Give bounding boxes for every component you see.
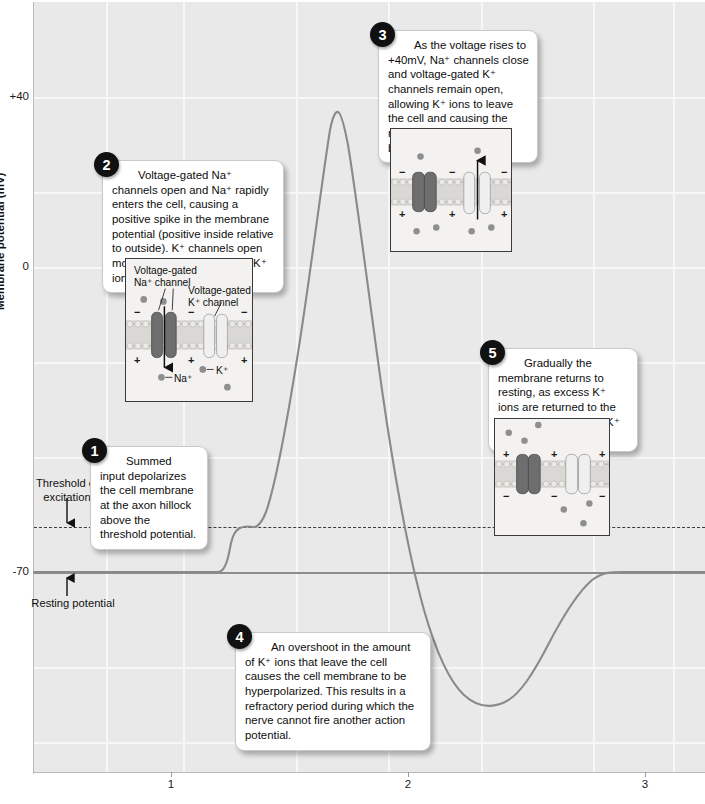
callout-3-badge: 3 [370,22,395,47]
y-tick-zero: 0 [0,260,29,272]
x-tick-3: 3 [635,778,655,790]
outside-charge-sign: + [551,449,557,460]
outside-charge-sign: + [503,449,509,460]
x-tick-2: 2 [398,778,418,790]
k-channel-label-line1: Voltage-gated [188,285,251,296]
membrane-graphic [495,419,609,535]
callout-4-badge: 4 [227,624,252,649]
x-tick-mark [171,772,172,777]
membrane-graphic [391,129,511,251]
callout-1[interactable]: 1 Summed input depolarizes the cell memb… [90,446,208,550]
outside-charge-sign: − [501,167,507,178]
k-ion-label: K⁺ [216,365,228,376]
callout-5-badge: 5 [480,340,505,365]
outside-charge-sign: − [449,167,455,178]
callout-1-badge: 1 [82,438,107,463]
callout-4-text: An overshoot in the amount of K⁺ ions th… [236,633,430,750]
membrane-diagram-2: Voltage-gated Na⁺ channel Voltage-gated … [125,258,253,402]
callout-1-text: Summed input depolarizes the cell membra… [91,447,207,549]
inside-charge-sign: − [551,491,557,502]
outside-charge-sign: − [188,307,194,318]
gridline-horizontal [33,97,705,99]
x-axis [33,772,705,773]
gridline-vertical [106,2,108,772]
inside-charge-sign: + [501,209,507,220]
x-tick-mark [408,772,409,777]
outside-charge-sign: − [241,307,247,318]
membrane-diagram-3: − − − + + + [390,128,512,252]
inside-charge-sign: + [188,355,194,366]
inside-charge-sign: − [503,491,509,502]
inside-charge-sign: + [241,355,247,366]
na-channel-label-line2: Na⁺ channel [134,277,191,288]
gridline-vertical [673,2,675,772]
inside-charge-sign: − [599,491,605,502]
threshold-label-line1: Threshold of [36,477,98,489]
y-axis-label: Membrane potential (mV) [0,173,6,310]
membrane-diagram-5: + + + − − − [494,418,610,536]
threshold-label-line2: excitation [43,491,90,503]
resting-potential-line [34,572,705,574]
outside-charge-sign: + [599,449,605,460]
y-tick-minus70: -70 [0,565,29,577]
x-tick-mark [645,772,646,777]
resting-potential-label: Resting potential [18,597,128,611]
k-channel-label-line2: K⁺ channel [188,297,238,308]
inside-charge-sign: + [449,209,455,220]
y-tick-plus40: +40 [0,90,29,102]
x-tick-1: 1 [161,778,181,790]
na-channel-label-line1: Voltage-gated [134,265,197,276]
y-axis [33,2,34,774]
inside-charge-sign: + [399,209,405,220]
callout-2-badge: 2 [94,152,119,177]
outside-charge-sign: − [399,167,405,178]
callout-4[interactable]: 4 An overshoot in the amount of K⁺ ions … [235,632,431,751]
na-ion-label: Na⁺ [174,373,192,384]
outside-charge-sign: − [134,307,140,318]
action-potential-figure: Membrane potential (mV) +40 0 -70 1 2 3 … [0,0,705,804]
inside-charge-sign: + [134,355,140,366]
